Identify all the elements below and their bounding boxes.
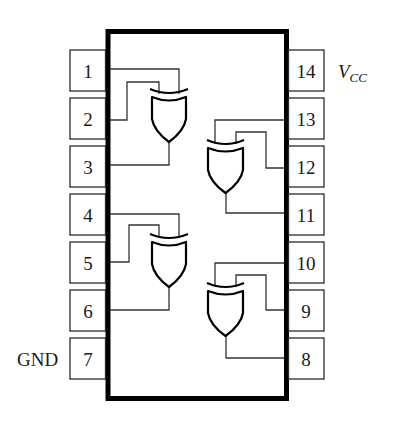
pin-number: 10 bbox=[297, 253, 316, 274]
ic-pinout-diagram: 1 2 3 4 5 6 7 14 bbox=[0, 0, 394, 421]
pin-12: 12 bbox=[289, 146, 325, 187]
pin-8: 8 bbox=[289, 338, 325, 379]
pin-number: 5 bbox=[83, 253, 93, 274]
pin-number: 6 bbox=[83, 301, 93, 322]
pin-5: 5 bbox=[70, 242, 106, 283]
right-pins: 14 13 12 11 10 9 8 bbox=[289, 50, 325, 379]
pin-number: 11 bbox=[297, 205, 315, 226]
pin-10: 10 bbox=[289, 242, 325, 283]
pin-number: 7 bbox=[83, 349, 93, 370]
pin-7: 7 bbox=[70, 338, 106, 379]
pin-number: 1 bbox=[83, 61, 93, 82]
left-pins: 1 2 3 4 5 6 7 bbox=[70, 50, 106, 379]
pin-3: 3 bbox=[70, 146, 106, 187]
pin-13: 13 bbox=[289, 98, 325, 139]
pin-9: 9 bbox=[289, 290, 325, 331]
pin-number: 13 bbox=[297, 109, 316, 130]
pin-6: 6 bbox=[70, 290, 106, 331]
vcc-subscript: CC bbox=[350, 70, 368, 85]
pin-number: 8 bbox=[301, 349, 311, 370]
pin-number: 9 bbox=[301, 301, 311, 322]
pin-11: 11 bbox=[289, 194, 325, 235]
pin-number: 4 bbox=[83, 205, 93, 226]
gnd-label: GND bbox=[17, 349, 58, 370]
pin-number: 12 bbox=[297, 157, 316, 178]
pin-number: 3 bbox=[83, 157, 93, 178]
chip-body bbox=[108, 32, 287, 399]
pin-14: 14 bbox=[289, 50, 325, 91]
pin-number: 2 bbox=[83, 109, 93, 130]
pin-2: 2 bbox=[70, 98, 106, 139]
pin-4: 4 bbox=[70, 194, 106, 235]
vcc-label: VCC bbox=[338, 61, 367, 85]
pin-number: 14 bbox=[297, 61, 317, 82]
pin-1: 1 bbox=[70, 50, 106, 91]
